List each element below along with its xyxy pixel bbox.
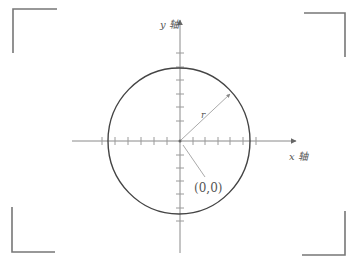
origin-pointer-line	[183, 145, 205, 177]
frame-corners	[12, 9, 345, 255]
x-axis-label: x 轴	[289, 151, 309, 162]
corner-bottom-right	[302, 211, 345, 255]
corner-top-right	[304, 13, 345, 57]
origin-label: (0,0)	[194, 181, 222, 195]
radius-line	[181, 94, 230, 140]
radius-label: r	[201, 110, 206, 120]
corner-bottom-left	[12, 207, 55, 252]
y-axis-label: y 轴	[159, 19, 180, 30]
diagram-canvas: y 轴 x 轴 r (0,0)	[0, 0, 353, 264]
origin-point	[179, 140, 182, 143]
corner-top-left	[13, 9, 57, 53]
